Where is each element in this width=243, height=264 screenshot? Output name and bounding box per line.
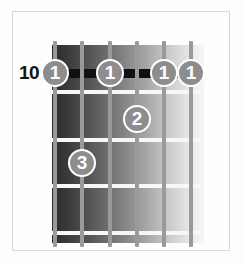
- finger-marker-1-s5: 1: [150, 59, 178, 87]
- string-2: [80, 41, 84, 247]
- chord-diagram: 10 111123: [0, 0, 243, 264]
- fret-line-3: [52, 184, 204, 188]
- fret-line-2: [52, 138, 204, 142]
- finger-marker-1-s6: 1: [177, 59, 205, 87]
- finger-marker-1-s3: 1: [96, 59, 124, 87]
- fret-position-label: 10: [19, 63, 39, 83]
- fret-line-1: [52, 90, 204, 94]
- string-4: [135, 41, 139, 247]
- finger-marker-2-s4: 2: [123, 105, 151, 133]
- finger-marker-1-s1: 1: [41, 59, 69, 87]
- finger-marker-3-s2: 3: [68, 149, 96, 177]
- fret-line-4: [52, 231, 204, 235]
